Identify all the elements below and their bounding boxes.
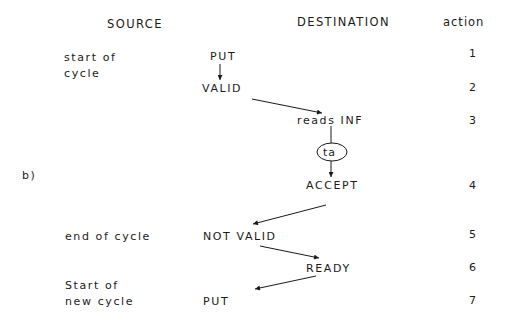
arrow-accept-to-not-valid <box>253 205 326 224</box>
diagram-edges <box>0 0 508 326</box>
arrow-valid-to-reads-inf <box>252 99 322 113</box>
arrow-not-valid-to-ready <box>260 246 319 258</box>
ta-ellipse <box>317 143 347 161</box>
arrow-ready-to-put <box>255 276 316 289</box>
